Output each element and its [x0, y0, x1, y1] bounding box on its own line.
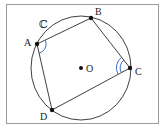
point-b	[89, 16, 93, 20]
diagram-canvas: ℂ A B C D O	[0, 0, 162, 128]
point-c	[128, 66, 132, 70]
vertex-label-d: D	[40, 111, 47, 122]
center-label: O	[86, 63, 93, 74]
point-o	[79, 66, 83, 70]
circle-label: ℂ	[39, 18, 48, 31]
point-d	[50, 108, 54, 112]
angle-mark-c-inner	[120, 60, 124, 72]
angle-mark-a	[39, 40, 46, 53]
quadrilateral-abcd	[37, 18, 130, 110]
point-a	[35, 42, 39, 46]
vertex-label-b: B	[95, 6, 102, 17]
vertex-label-a: A	[24, 37, 32, 48]
vertex-label-c: C	[135, 66, 142, 77]
